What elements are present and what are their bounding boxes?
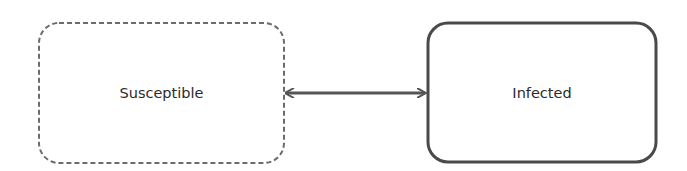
susceptible-node-label: Susceptible (39, 23, 284, 163)
infected-node-label: Infected (428, 23, 656, 162)
